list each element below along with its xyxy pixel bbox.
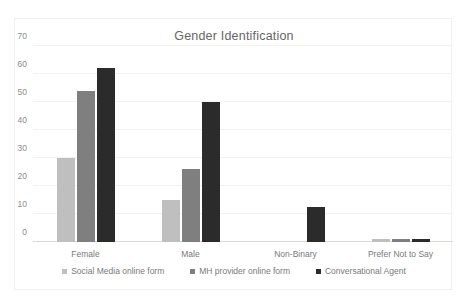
legend-swatch-icon: [316, 269, 321, 274]
y-axis-tick-label: 0: [22, 227, 27, 237]
legend-item[interactable]: Conversational Agent: [316, 266, 406, 276]
legend-swatch-icon: [62, 269, 67, 274]
legend-label: Conversational Agent: [325, 266, 406, 276]
y-axis-tick-label: 60: [18, 59, 27, 69]
chart-legend: Social Media online formMH provider onli…: [15, 266, 453, 276]
bar-group: Male: [138, 46, 243, 242]
chart-card: Gender Identification 010203040506070 Fe…: [14, 18, 452, 290]
bar-group: Female: [33, 46, 138, 242]
y-axis-tick-label: 30: [18, 143, 27, 153]
chart-title: Gender Identification: [15, 29, 453, 43]
x-axis-category-label: Male: [138, 249, 243, 259]
bar[interactable]: [372, 239, 390, 242]
bar[interactable]: [182, 169, 200, 242]
y-axis-tick-label: 50: [18, 87, 27, 97]
legend-item[interactable]: MH provider online form: [190, 266, 290, 276]
x-axis-category-label: Female: [33, 249, 138, 259]
y-axis-tick-label: 70: [18, 31, 27, 41]
legend-item[interactable]: Social Media online form: [62, 266, 164, 276]
legend-label: Social Media online form: [71, 266, 164, 276]
legend-label: MH provider online form: [199, 266, 290, 276]
bar[interactable]: [162, 200, 180, 242]
y-axis-tick-label: 40: [18, 115, 27, 125]
bar[interactable]: [202, 102, 220, 242]
plot-area: 010203040506070 FemaleMaleNon-BinaryPref…: [33, 46, 453, 242]
legend-swatch-icon: [190, 269, 195, 274]
bar[interactable]: [307, 207, 325, 242]
bar[interactable]: [77, 91, 95, 242]
y-axis-tick-label: 20: [18, 171, 27, 181]
x-axis-category-label: Prefer Not to Say: [348, 249, 453, 259]
bar[interactable]: [57, 158, 75, 242]
bar[interactable]: [412, 239, 430, 242]
bar[interactable]: [97, 68, 115, 242]
bar-group: Non-Binary: [243, 46, 348, 242]
bar-group: Prefer Not to Say: [348, 46, 453, 242]
y-axis-tick-label: 10: [18, 199, 27, 209]
bar[interactable]: [392, 239, 410, 242]
x-axis-category-label: Non-Binary: [243, 249, 348, 259]
